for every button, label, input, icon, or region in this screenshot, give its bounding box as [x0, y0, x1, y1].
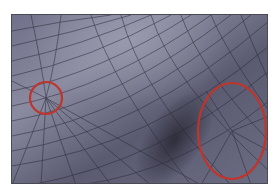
- mesh-render: [12, 15, 268, 184]
- mesh-image-frame: [11, 14, 268, 184]
